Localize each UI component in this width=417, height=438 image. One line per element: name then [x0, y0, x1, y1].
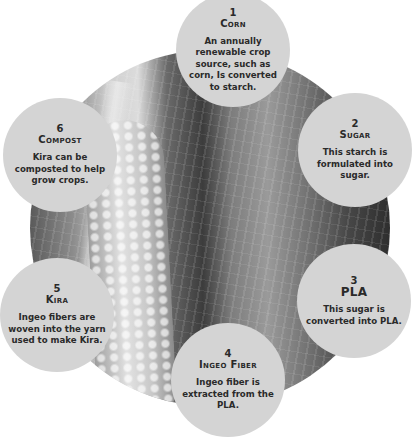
- step-ingeo-fiber: 4 Ingeo Fiber Ingeo fiber is extracted f…: [171, 323, 285, 437]
- step-number: 1: [230, 7, 237, 18]
- step-number: 4: [225, 348, 232, 359]
- step-corn: 1 Corn An annually renewable crop source…: [176, 0, 290, 107]
- step-title: Kira: [46, 294, 68, 306]
- step-description: Kira can be composted to help grow crops…: [11, 152, 109, 187]
- step-pla: 3 PLA This sugar is converted into PLA.: [297, 244, 411, 358]
- step-title: Corn: [220, 18, 246, 30]
- step-sugar: 2 Sugar This starch is formulated into s…: [298, 93, 412, 207]
- step-description: This starch is formulated into sugar.: [306, 147, 404, 182]
- step-description: This sugar is converted into PLA.: [305, 304, 403, 327]
- step-title: Ingeo Fiber: [199, 359, 257, 371]
- step-number: 2: [352, 118, 359, 129]
- step-title: PLA: [341, 286, 368, 298]
- step-kira: 5 Kira Ingeo fibers are woven into the y…: [0, 258, 114, 372]
- step-compost: 6 Compost Kira can be composted to help …: [3, 98, 117, 212]
- step-title: Compost: [38, 134, 81, 146]
- step-number: 6: [57, 123, 64, 134]
- step-description: Ingeo fibers are woven into the yarn use…: [8, 312, 106, 347]
- step-title: Sugar: [340, 129, 371, 141]
- step-description: An annually renewable crop source, such …: [184, 36, 282, 94]
- step-description: Ingeo fiber is extracted from the PLA.: [179, 377, 277, 412]
- step-number: 5: [54, 283, 61, 294]
